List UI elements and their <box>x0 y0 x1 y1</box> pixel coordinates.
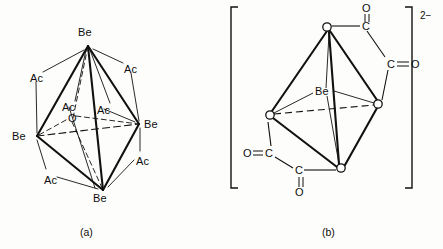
label-oxygen-2-b: O <box>411 59 420 70</box>
o-be-top <box>73 46 88 118</box>
edge-be-right-be-bottom <box>103 124 139 190</box>
ac-ul-to-be-top <box>43 50 84 72</box>
edge-top-left-b <box>272 31 327 111</box>
be-to-top-vertex <box>326 34 329 88</box>
label-be-top-a: Be <box>78 27 92 38</box>
vertex-circle-left <box>266 111 274 119</box>
label-be-left-a: Be <box>12 131 26 142</box>
edge-be-left-be-right-hidden <box>37 124 139 136</box>
be-to-right-vertex <box>334 91 374 103</box>
bracket-left <box>231 7 238 188</box>
edge-be-top-be-left <box>37 46 88 136</box>
edge-right-bottom-b <box>345 108 377 165</box>
label-be-bottom-a: Be <box>93 193 107 204</box>
charge-label-b: 2− <box>420 10 431 21</box>
ac-ll-to-be-left <box>37 140 46 169</box>
label-ac-lower-right-a: Ac <box>136 156 149 167</box>
vertex-circle-bottom <box>337 164 345 172</box>
label-ac-upper-left-a: Ac <box>30 73 43 84</box>
c3-to-c4 <box>275 157 293 168</box>
label-oxygen-4-b: O <box>295 187 304 198</box>
edge-top-right-b <box>330 31 377 100</box>
c2-to-o-vertex <box>382 70 388 100</box>
label-carbon-1-b: C <box>362 21 370 32</box>
caption-panel-b: (b) <box>322 226 335 238</box>
vertex-circles-b <box>266 23 382 172</box>
be-connectors-b <box>274 34 374 164</box>
vertex-circle-top <box>323 23 331 31</box>
double-bond-c2-o2 <box>397 62 409 66</box>
be-to-left-vertex <box>274 93 313 113</box>
label-ac-lower-left-a: Ac <box>44 175 57 186</box>
label-carbon-4-b: C <box>295 165 303 176</box>
label-central-oxygen-a: O <box>68 113 77 124</box>
chemistry-figure: Be Be Be Be Ac Ac Ac Ac Ac Ac O Be C C C… <box>0 0 443 249</box>
edge-left-bottom-b <box>273 118 337 167</box>
label-ac-upper-right-a: Ac <box>124 64 137 75</box>
label-ac-center-right-a: Ac <box>97 105 110 116</box>
c1-to-c2 <box>367 31 385 57</box>
ac-ul-to-be-left <box>36 82 37 133</box>
edge-be-top-be-bottom <box>88 46 103 190</box>
label-carbon-2-b: C <box>387 59 395 70</box>
vertex-circle-right <box>374 100 382 108</box>
label-be-right-a: Be <box>144 119 158 130</box>
oxalate-top-right <box>332 14 409 100</box>
bracket-right <box>405 7 412 188</box>
label-carbon-3-b: C <box>265 148 273 159</box>
panel-b-structure <box>231 7 412 188</box>
label-be-center-b: Be <box>315 86 329 97</box>
label-oxygen-1-b: O <box>362 3 371 14</box>
caption-panel-a: (a) <box>80 226 93 238</box>
structure-drawing <box>0 0 443 249</box>
double-bond-c3-o3 <box>253 151 263 155</box>
edge-left-right-hidden-b <box>274 105 374 114</box>
edge-top-bottom-b <box>329 32 339 164</box>
o-vertex-to-c3 <box>268 122 271 146</box>
label-oxygen-3-b: O <box>243 148 252 159</box>
